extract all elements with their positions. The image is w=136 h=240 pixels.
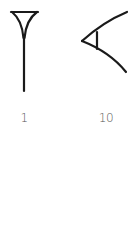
label-ten: 10 xyxy=(91,111,121,125)
label-one: 1 xyxy=(9,111,39,125)
